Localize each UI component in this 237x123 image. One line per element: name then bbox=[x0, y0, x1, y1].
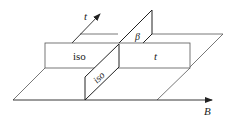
phase-diagram: t β iso t iso B bbox=[0, 0, 237, 123]
band-left-label: iso bbox=[73, 50, 86, 62]
t-axis-label: t bbox=[84, 10, 88, 22]
panel-upper-label: β bbox=[134, 31, 140, 42]
b-axis-label: B bbox=[204, 105, 211, 117]
